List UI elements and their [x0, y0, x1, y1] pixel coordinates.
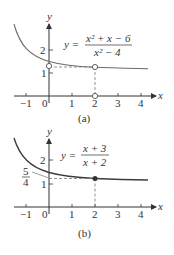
y-tick-label-1-a: 1 [41, 67, 47, 79]
caption-b: (b) [78, 227, 91, 240]
open-circle-marker [92, 64, 97, 69]
x-tick-label-a: 4 [138, 97, 144, 109]
caption-a: (a) [78, 112, 91, 125]
filled-point-marker [93, 176, 98, 181]
x-tick-label-a: 1 [69, 97, 75, 109]
open-circle-marker [46, 63, 51, 68]
x-tick-label-b: 0 [42, 208, 48, 220]
x-tick-label-a: 2 [92, 97, 98, 109]
y-tick-label-2-b: 2 [40, 154, 46, 166]
x-axis-label-a: x [157, 89, 163, 101]
equation-lhs-b: y = [60, 149, 76, 161]
curve-b [14, 138, 148, 180]
x-tick-label-a: 3 [115, 97, 121, 109]
x-tick-label-b: 2 [92, 208, 98, 220]
equation-numerator-a: x² + x − 6 [85, 32, 131, 44]
y-axis-label-b: y [46, 125, 52, 137]
x-tick-label-b: 1 [69, 208, 75, 220]
y-tick-label-2-a: 2 [40, 44, 46, 56]
panel-a: y x 2 1 −1 0 1 2 3 4 y = x² + x − 6 x² −… [14, 10, 163, 125]
equation-denominator-a: x² − 4 [93, 46, 121, 58]
figure-canvas: y x 2 1 −1 0 1 2 3 4 y = x² + x − 6 x² −… [0, 0, 174, 255]
panel-b: y x 2 1 5 4 −1 0 1 2 3 4 y = x + 3 x + 2… [14, 125, 163, 240]
equation-denominator-b: x + 2 [82, 156, 107, 168]
y-tick-label-1-b: 1 [41, 178, 47, 190]
annotation-denominator-b: 4 [23, 176, 29, 188]
x-axis-label-b: x [157, 200, 163, 212]
equation-numerator-b: x + 3 [82, 142, 107, 154]
y-axis-label-a: y [46, 10, 52, 22]
x-tick-label-a: −1 [20, 97, 32, 109]
equation-lhs-a: y = [63, 38, 79, 50]
x-tick-label-b: −1 [20, 208, 32, 220]
curve-a [14, 24, 148, 69]
x-tick-label-b: 4 [138, 208, 144, 220]
x-tick-label-b: 3 [115, 208, 121, 220]
x-tick-label-a: 0 [42, 97, 48, 109]
